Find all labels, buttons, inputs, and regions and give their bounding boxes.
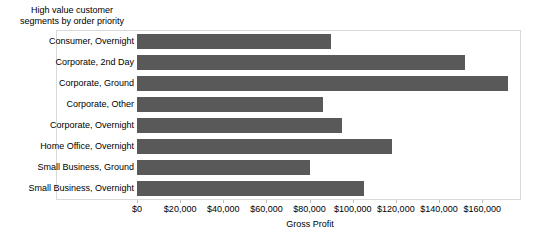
category-label: Corporate, Overnight (50, 115, 134, 136)
bar-track (137, 115, 521, 136)
x-axis-tick-label: $40,000 (207, 204, 240, 214)
x-axis-title: Gross Profit (137, 219, 483, 229)
bar-row: Corporate, Overnight (0, 115, 540, 136)
x-axis-tick (223, 200, 224, 203)
bar[interactable] (137, 55, 465, 70)
bar-row: Small Business, Ground (0, 157, 540, 178)
bar-row: Small Business, Overnight (0, 178, 540, 199)
x-axis-tick-label: $0 (132, 204, 142, 214)
bar[interactable] (137, 139, 392, 154)
bar[interactable] (137, 76, 508, 91)
bar-track (137, 94, 521, 115)
bar-row: Corporate, Other (0, 94, 540, 115)
chart-title: High value customer segments by order pr… (12, 5, 132, 27)
bar[interactable] (137, 118, 342, 133)
bar-chart: High value customer segments by order pr… (0, 0, 540, 246)
x-axis-tick (439, 200, 440, 203)
bar-track (137, 178, 521, 199)
x-axis-tick-label: $160,000 (463, 204, 501, 214)
category-label: Corporate, Other (66, 94, 134, 115)
bar-rows: Consumer, OvernightCorporate, 2nd DayCor… (0, 31, 540, 199)
x-axis-tick-label: $140,000 (420, 204, 458, 214)
x-axis-tick (353, 200, 354, 203)
x-axis-tick-label: $80,000 (293, 204, 326, 214)
x-axis-tick (482, 200, 483, 203)
category-label: Corporate, Ground (59, 73, 134, 94)
x-axis-tick-label: $120,000 (377, 204, 415, 214)
category-label: Consumer, Overnight (49, 31, 134, 52)
bar-track (137, 31, 521, 52)
bar[interactable] (137, 97, 323, 112)
x-axis-tick (396, 200, 397, 203)
bar-row: Home Office, Overnight (0, 136, 540, 157)
bar-row: Consumer, Overnight (0, 31, 540, 52)
x-axis-tick (180, 200, 181, 203)
category-label: Small Business, Ground (37, 157, 134, 178)
bar-track (137, 52, 521, 73)
bar[interactable] (137, 34, 331, 49)
bar-track (137, 157, 521, 178)
category-label: Home Office, Overnight (40, 136, 134, 157)
x-axis: Gross Profit $0$20,000$40,000$60,000$80,… (0, 200, 540, 246)
bar-track (137, 136, 521, 157)
x-axis-tick (137, 200, 138, 203)
x-axis-tick-label: $100,000 (334, 204, 372, 214)
bar-track (137, 73, 521, 94)
bar-row: Corporate, 2nd Day (0, 52, 540, 73)
bar[interactable] (137, 160, 310, 175)
bar-row: Corporate, Ground (0, 73, 540, 94)
x-axis-tick-label: $20,000 (164, 204, 197, 214)
category-label: Small Business, Overnight (28, 178, 134, 199)
category-label: Corporate, 2nd Day (55, 52, 134, 73)
x-axis-tick-label: $60,000 (250, 204, 283, 214)
x-axis-tick (310, 200, 311, 203)
x-axis-tick (266, 200, 267, 203)
bar[interactable] (137, 181, 364, 196)
